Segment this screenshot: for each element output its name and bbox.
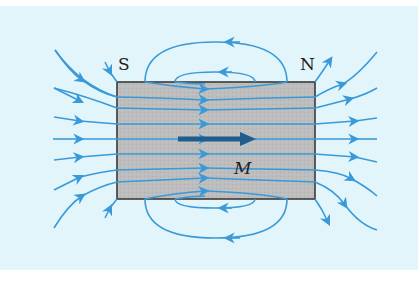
north-pole-label: N: [300, 54, 315, 74]
magnetization-label: M: [233, 158, 252, 178]
south-pole-label: S: [118, 54, 130, 74]
magnet-field-diagram: S N M: [0, 0, 418, 283]
